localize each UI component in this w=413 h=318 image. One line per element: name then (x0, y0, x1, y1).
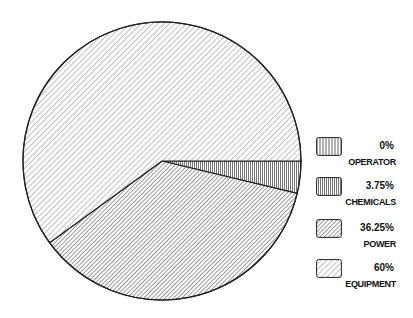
power-swatch-icon (316, 219, 342, 238)
legend-item-operator: 0% OPERATOR (316, 137, 396, 177)
legend-value: 60% (374, 262, 394, 273)
legend-value: 36.25% (360, 222, 394, 233)
legend-label: OPERATOR (348, 157, 396, 167)
equipment-swatch-icon (316, 259, 342, 278)
legend-label: POWER (363, 239, 396, 249)
legend-value: 3.75% (366, 180, 394, 191)
operator-swatch-icon (316, 137, 342, 156)
legend-label: CHEMICALS (345, 197, 396, 207)
legend-item-equipment: 60% EQUIPMENT (316, 259, 396, 299)
legend-item-power: 36.25% POWER (316, 219, 396, 259)
chemicals-swatch-icon (316, 177, 342, 196)
legend-label: EQUIPMENT (345, 279, 396, 289)
legend-value: 0% (380, 140, 394, 151)
legend-item-chemicals: 3.75% CHEMICALS (316, 177, 396, 217)
